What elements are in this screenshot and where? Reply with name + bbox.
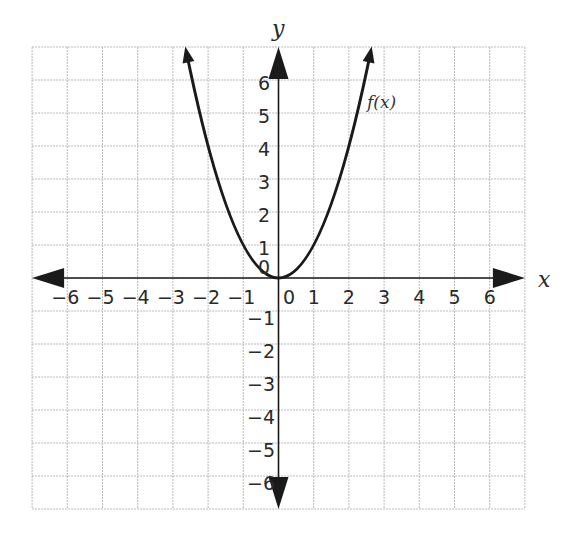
tick-labels: −6−5−4−3−2−112345606543210−1−2−3−4−5−6 xyxy=(51,72,495,494)
function-label: f(x) xyxy=(365,92,396,112)
y-tick-label: −3 xyxy=(247,373,275,395)
y-tick-label: 3 xyxy=(258,171,270,193)
y-tick-label-zero: 0 xyxy=(258,256,270,278)
x-tick-label: −6 xyxy=(51,286,79,308)
y-tick-label: −2 xyxy=(247,340,275,362)
y-tick-label: −5 xyxy=(247,439,275,461)
x-tick-label: −2 xyxy=(192,286,220,308)
y-tick-label: −6 xyxy=(247,472,275,494)
x-tick-label: 1 xyxy=(308,286,320,308)
x-axis-right-arrow-icon xyxy=(493,268,525,288)
x-tick-label: 4 xyxy=(413,286,425,308)
x-tick-label: −5 xyxy=(86,286,114,308)
x-tick-label: −1 xyxy=(227,286,255,308)
x-axis-label: x xyxy=(538,267,551,292)
y-tick-label: −4 xyxy=(247,406,275,428)
y-tick-label: 5 xyxy=(258,105,270,127)
y-tick-label: 2 xyxy=(258,204,270,226)
curve-right-arrow-icon xyxy=(363,47,375,64)
x-tick-label: 6 xyxy=(484,286,496,308)
y-tick-label: −1 xyxy=(247,307,275,329)
x-tick-label-zero: 0 xyxy=(283,286,295,308)
y-axis-label: y xyxy=(271,16,285,41)
x-tick-label: 5 xyxy=(448,286,460,308)
y-axis-up-arrow-icon xyxy=(269,47,289,79)
x-tick-label: 3 xyxy=(378,286,390,308)
graph-canvas: −6−5−4−3−2−112345606543210−1−2−3−4−5−6 x… xyxy=(0,0,578,533)
curve-left-arrow-icon xyxy=(183,47,195,64)
coordinate-plane: −6−5−4−3−2−112345606543210−1−2−3−4−5−6 x… xyxy=(0,0,578,533)
y-tick-label: 4 xyxy=(258,138,270,160)
x-tick-label: −4 xyxy=(122,286,150,308)
y-tick-label: 6 xyxy=(258,72,270,94)
x-axis-left-arrow-icon xyxy=(32,268,64,288)
x-tick-label: −3 xyxy=(157,286,185,308)
x-tick-label: 2 xyxy=(343,286,355,308)
